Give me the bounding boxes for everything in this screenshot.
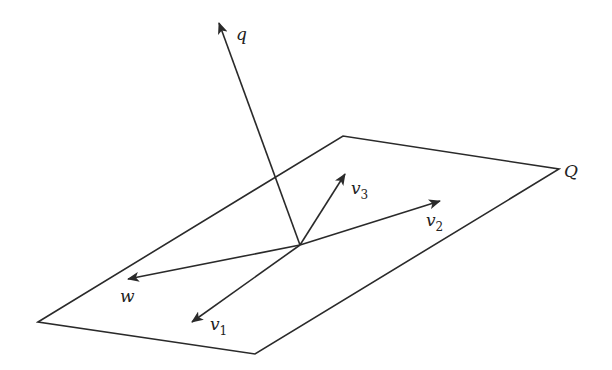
vector-v2-arrow [300, 201, 440, 245]
vector-v3-label: v3 [351, 178, 368, 202]
vector-v2-label: v2 [426, 210, 443, 234]
vector-v2-subscript: 2 [436, 220, 444, 234]
vector-v3-subscript: 3 [361, 188, 369, 202]
vector-v1-subscript: 1 [220, 324, 228, 338]
vectors-group: qv3v2wv1 [120, 23, 443, 338]
vector-v1-label: v1 [210, 314, 227, 338]
vector-q-label: q [236, 24, 247, 44]
vector-plane-diagram: qv3v2wv1 Q [0, 0, 612, 370]
vector-v3-arrow [300, 174, 345, 245]
vector-q-arrow [219, 23, 300, 245]
vector-v1-arrow [192, 245, 300, 322]
vector-w-label: w [120, 286, 135, 306]
plane-label-Q: Q [564, 161, 578, 181]
vector-w-arrow [128, 245, 300, 279]
